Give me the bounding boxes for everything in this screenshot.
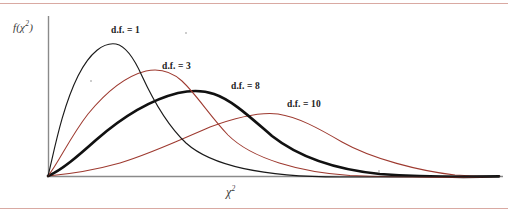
y-axis-label: f(χ2) bbox=[13, 19, 33, 33]
chi-square-figure: f(χ2) χ2 d.f. = 1 d.f. = 3 d.f. = 8 d.f.… bbox=[0, 0, 508, 221]
chi-square-plot bbox=[0, 0, 508, 221]
curve-label-df-1: d.f. = 1 bbox=[111, 25, 140, 35]
curve-label-df-3: d.f. = 3 bbox=[162, 61, 191, 71]
curve-df-1 bbox=[48, 44, 499, 177]
curve-label-df-8: d.f. = 8 bbox=[231, 81, 260, 91]
curve-label-df-10: d.f. = 10 bbox=[287, 99, 321, 109]
x-axis-label: χ2 bbox=[226, 184, 235, 200]
